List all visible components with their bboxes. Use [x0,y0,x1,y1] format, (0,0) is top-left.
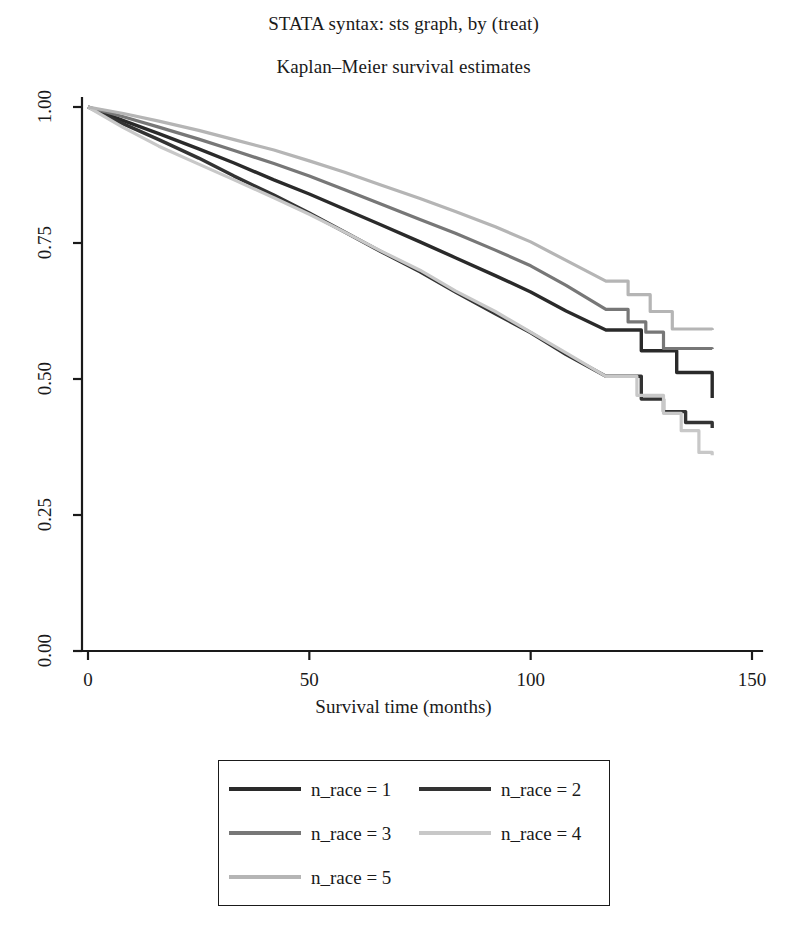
legend-item: n_race = 1 [229,780,419,799]
curve-5 [88,107,712,330]
legend-label: n_race = 2 [501,780,581,799]
legend-line-swatch [229,787,301,791]
survival-curves [88,107,712,455]
legend-label: n_race = 4 [501,824,581,843]
y-tick-label: 0.75 [35,215,54,271]
legend-line-swatch [229,875,301,879]
plot-axes [73,98,762,660]
x-tick-label: 50 [279,670,339,689]
x-tick-label: 150 [722,670,782,689]
y-tick-label: 1.00 [35,79,54,135]
legend-item: n_race = 3 [229,824,419,843]
legend-label: n_race = 5 [311,868,391,887]
y-tick-label: 0.50 [35,351,54,407]
legend-line-swatch [419,831,491,835]
legend-line-swatch [229,831,301,835]
x-axis-title: Survival time (months) [0,697,807,716]
y-tick-label: 0.00 [35,623,54,679]
legend-item: n_race = 4 [419,824,609,843]
x-tick-label: 0 [58,670,118,689]
chart-legend: n_race = 1n_race = 2n_race = 3n_race = 4… [218,760,610,906]
legend-label: n_race = 3 [311,824,391,843]
x-tick-label: 100 [501,670,561,689]
y-tick-label: 0.25 [35,487,54,543]
legend-item: n_race = 5 [229,868,419,887]
legend-line-swatch [419,787,491,791]
legend-item: n_race = 2 [419,780,609,799]
legend-label: n_race = 1 [311,780,391,799]
